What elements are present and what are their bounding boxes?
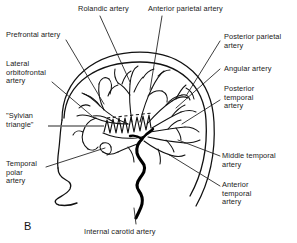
label-prefrontal-artery: Prefrontal artery	[6, 31, 60, 40]
internal-carotid-artery-vessel	[136, 139, 145, 218]
label-angular-artery: Angular artery	[224, 65, 271, 74]
sylvian-triangle-dashed-line	[107, 113, 152, 118]
label-anterior-parietal-artery: Anterior parietal artery	[148, 5, 223, 14]
label-sylvian-triangle: "Sylvian triangle"	[6, 112, 34, 129]
label-lateral-orbitofrontal-artery: Lateral orbitofrontal artery	[6, 60, 46, 86]
leader-lateral-orbitofrontal	[52, 82, 92, 116]
label-rolandic-artery: Rolandic artery	[78, 5, 129, 14]
mca-posterior-temporal-branches	[100, 105, 200, 164]
leader-posterior-parietal	[186, 41, 220, 96]
panel-letter: B	[24, 220, 31, 232]
label-anterior-temporal-artery: Anterior temporal artery	[222, 181, 251, 207]
leader-temporal-polar	[46, 148, 105, 167]
label-posterior-parietal-artery: Posterior parietal artery	[224, 33, 281, 50]
label-internal-carotid-artery: Internal carotid artery	[84, 228, 156, 237]
label-posterior-temporal-artery: Posterior temporal artery	[224, 85, 254, 111]
label-middle-temporal-artery: Middle temporal artery	[222, 152, 276, 169]
face-profile	[55, 168, 77, 205]
label-temporal-polar-artery: Temporal polar artery	[6, 160, 37, 186]
figure-panel: Rolandic artery Anterior parietal artery…	[0, 0, 297, 243]
leader-lines	[46, 16, 220, 224]
